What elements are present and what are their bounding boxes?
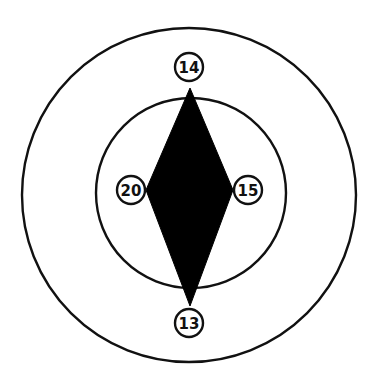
node-top-label: 14 [179, 59, 200, 77]
target-diagram: 14 20 15 13 [0, 0, 379, 387]
node-bottom-label: 13 [179, 315, 200, 333]
node-left-label: 20 [121, 182, 142, 200]
node-top: 14 [175, 53, 203, 81]
node-right: 15 [234, 176, 262, 204]
node-left: 20 [117, 176, 145, 204]
node-right-label: 15 [238, 182, 259, 200]
diamond-shape [146, 88, 233, 306]
node-bottom: 13 [175, 309, 203, 337]
